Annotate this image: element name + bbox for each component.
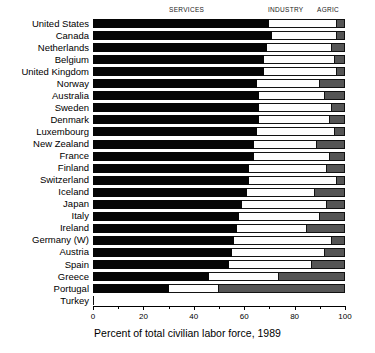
category-label: Australia [1,91,89,100]
bar-row [93,260,345,269]
bar-segment-industry [259,103,332,112]
bar-segment-industry [249,176,337,185]
category-label: Ireland [1,223,89,232]
bar-segment-agric [320,79,345,88]
chart-legend-header: SERVICES INDUSTRY AGRIC [93,5,345,18]
bar-segment-agric [93,296,94,305]
bar-row [93,103,345,112]
bar-segment-services [93,55,264,64]
bar-segment-agric [337,67,345,76]
bar-segment-agric [320,212,345,221]
bar-segment-agric [332,236,345,245]
category-label: Germany (W) [1,235,89,244]
legend-label-industry: INDUSTRY [268,5,304,15]
category-label: Greece [1,272,89,281]
bar-segment-services [93,152,254,161]
category-label: Canada [1,31,89,40]
bar-segment-industry [264,55,335,64]
bar-segment-services [93,79,257,88]
bar-segment-services [93,212,239,221]
bar-segment-agric [325,248,345,257]
x-tick-minor [320,306,321,309]
category-label: Italy [1,211,89,220]
bar-row [93,140,345,149]
bar-segment-agric [332,43,345,52]
bar-segment-agric [330,152,345,161]
bar-segment-agric [330,115,345,124]
bar-segment-agric [307,224,345,233]
bar-segment-agric [279,272,345,281]
bar-segment-industry [272,31,338,40]
x-tick-label: 60 [240,312,249,322]
bar-segment-services [93,248,232,257]
bar-row [93,284,345,293]
x-tick-label: 20 [139,312,148,322]
category-label: Belgium [1,55,89,64]
bar-row [93,55,345,64]
bar-segment-industry [247,188,315,197]
bar-row [93,212,345,221]
category-label: Austria [1,247,89,256]
bar-segment-services [93,103,259,112]
bar-segment-agric [337,31,345,40]
bar-segment-services [93,188,247,197]
bar-segment-agric [315,188,345,197]
bar-row [93,19,345,28]
bar-segment-industry [239,212,320,221]
bar-segment-services [93,91,259,100]
category-label: Netherlands [1,43,89,52]
category-label: Switzerland [1,175,89,184]
x-tick-major [244,306,245,310]
x-tick-minor [169,306,170,309]
bar-segment-industry [237,224,308,233]
bar-segment-services [93,236,234,245]
x-axis-title: Percent of total civilian labor force, 1… [0,327,375,339]
bar-segment-industry [264,67,337,76]
category-label: Turkey [1,296,89,305]
x-tick-minor [219,306,220,309]
bar-row [93,91,345,100]
bar-segment-services [93,260,229,269]
bar-segment-industry [269,19,337,28]
bar-row [93,296,345,305]
bar-segment-agric [317,140,345,149]
bar-segment-industry [259,91,325,100]
bar-segment-services [93,43,267,52]
x-tick-major [194,306,195,310]
bar-segment-industry [234,236,332,245]
bar-segment-services [93,115,259,124]
category-label: Japan [1,199,89,208]
bar-segment-services [93,164,249,173]
bar-row [93,152,345,161]
bar-segment-services [93,176,249,185]
bar-segment-services [93,200,242,209]
category-label: United Kingdom [1,67,89,76]
bar-row [93,115,345,124]
x-tick-major [345,306,346,310]
bar-segment-agric [332,103,345,112]
legend-label-agric: AGRIC [317,5,339,15]
bar-segment-agric [327,200,345,209]
x-tick-minor [118,306,119,309]
bar-segment-industry [232,248,325,257]
category-label: Sweden [1,103,89,112]
bar-row [93,127,345,136]
bar-row [93,236,345,245]
category-label: Spain [1,260,89,269]
bar-segment-agric [219,284,345,293]
bar-segment-agric [327,164,345,173]
x-tick-minor [269,306,270,309]
bar-segment-agric [337,19,345,28]
x-tick-major [143,306,144,310]
bar-segment-industry [257,127,335,136]
bar-segment-industry [242,200,328,209]
bar-segment-industry [169,284,219,293]
plot-area [93,19,345,304]
bar-row [93,248,345,257]
bar-segment-agric [312,260,345,269]
bar-segment-agric [335,55,345,64]
labor-force-stacked-bar-chart: SERVICES INDUSTRY AGRIC United StatesCan… [0,0,375,353]
legend-label-services: SERVICES [169,5,204,15]
x-tick-label: 0 [91,312,95,322]
bar-row [93,200,345,209]
